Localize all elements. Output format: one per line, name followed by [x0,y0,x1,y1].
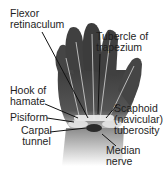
label-tubercle-of-trapezium: Tubercle of trapezium [96,31,148,53]
label-flexor-retinaculum: Flexor retinaculum [10,8,64,30]
carpal-tunnel [86,124,102,132]
label-hook-of-hamate: Hook of hamate [10,85,46,107]
label-scaphoid-tuberosity: Scaphoid (navicular) tuberosity [114,103,163,136]
label-median-nerve: Median nerve [106,145,140,167]
label-pisiform: Pisiform [10,112,48,123]
label-carpal-tunnel: Carpal tunnel [21,125,52,147]
